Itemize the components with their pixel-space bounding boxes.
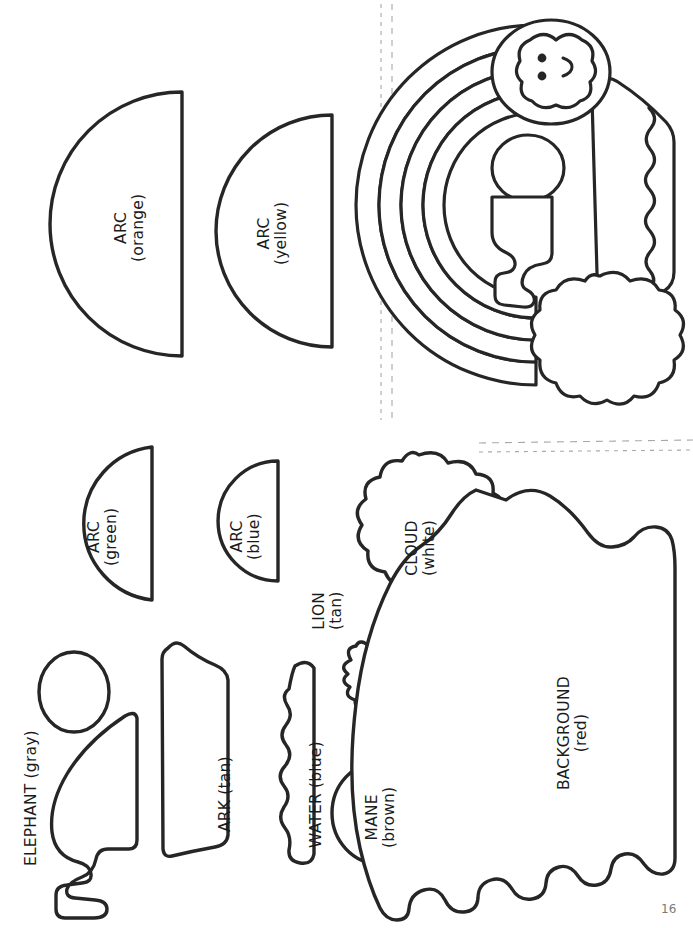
illustration-elephant-body [492, 197, 552, 307]
label-lion-line2: (tan) [328, 592, 345, 631]
label-arc-blue-line1: ARC [228, 521, 246, 553]
label-mane-line1: MANE [363, 794, 381, 840]
illustration-lion-muzzle [563, 58, 572, 76]
pattern-page: ARC (orange) ARC (yellow) ARC (green) AR… [0, 0, 693, 928]
label-arc-green: ARC (green) [86, 508, 121, 566]
label-arc-yellow-line1: ARC [255, 217, 273, 249]
label-water-text: WATER (blue) [307, 741, 325, 848]
label-lion-tan: LION (tan) [311, 592, 346, 631]
label-mane-line2: (brown) [381, 787, 398, 848]
label-cloud-line2: (white) [421, 520, 438, 576]
label-mane-brown: MANE (brown) [364, 787, 399, 848]
label-ark-tan: ARK (tan) [217, 756, 234, 832]
label-elephant-text: ELEPHANT (gray) [22, 730, 40, 866]
label-arc-green-line1: ARC [85, 521, 103, 553]
label-lion-line1: LION [310, 592, 328, 630]
label-arc-orange-line1: ARC [112, 212, 130, 244]
label-cloud-white: CLOUD (white) [404, 520, 439, 576]
label-arc-blue-line2: (blue) [246, 513, 263, 560]
label-arc-blue: ARC (blue) [229, 513, 264, 560]
label-arc-orange: ARC (orange) [113, 194, 148, 262]
illustration-elephant-head [492, 135, 564, 201]
illustration-lion-eye-right [538, 72, 547, 81]
label-cloud-line1: CLOUD [403, 520, 421, 575]
label-ark-text: ARK (tan) [216, 756, 234, 832]
illustration-lion-face [516, 35, 595, 108]
label-arc-yellow-line2: (yellow) [273, 202, 290, 265]
label-elephant-gray: ELEPHANT (gray) [23, 730, 40, 866]
label-background-line2: (red) [573, 676, 590, 790]
label-water-blue: WATER (blue) [308, 741, 325, 848]
page-number: 16 [661, 902, 676, 916]
label-background-line1: BACKGROUND [555, 676, 573, 790]
illustration-cloud [531, 272, 683, 404]
illustration-lion-eye-left [538, 54, 547, 63]
label-arc-yellow: ARC (yellow) [256, 202, 291, 265]
label-background-red: BACKGROUND (red) [556, 676, 591, 790]
label-arc-orange-line2: (orange) [130, 194, 147, 262]
label-arc-green-line2: (green) [103, 508, 120, 566]
